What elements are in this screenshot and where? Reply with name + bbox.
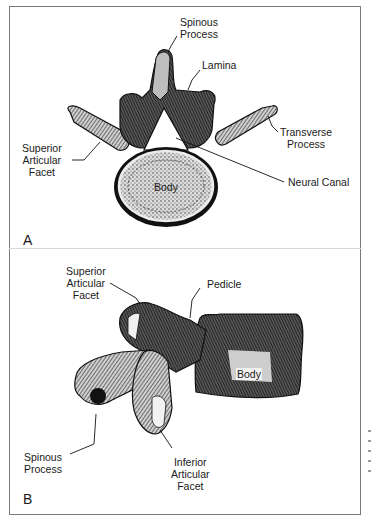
- label-line: Inferior: [171, 456, 210, 468]
- label-b-inferior-articular-facet: Inferior Articular Facet: [171, 456, 210, 492]
- label-b-superior-articular-facet: Superior Articular Facet: [66, 265, 106, 301]
- label-line: Neural Canal: [288, 176, 349, 188]
- label-a-transverse-process: Transverse Process: [280, 126, 332, 150]
- label-a-lamina: Lamina: [202, 59, 236, 71]
- label-line: Pedicle: [207, 278, 241, 290]
- label-line: Transverse: [280, 126, 332, 138]
- label-line: Lamina: [202, 59, 236, 71]
- label-b-pedicle: Pedicle: [207, 278, 241, 290]
- panel-a-vertebra-drawing: [68, 50, 277, 227]
- label-line: Process: [24, 463, 62, 475]
- panel-b-vertebra-drawing: [75, 303, 303, 434]
- label-line: Superior: [66, 265, 106, 277]
- label-b-body: Body: [236, 368, 262, 380]
- label-line: Superior: [22, 142, 62, 154]
- panel-letter-b: B: [23, 491, 32, 507]
- label-a-superior-articular-facet: Superior Articular Facet: [22, 142, 62, 178]
- label-a-neural-canal: Neural Canal: [288, 176, 349, 188]
- vertebra-illustrations: [0, 0, 376, 528]
- label-line: Facet: [171, 480, 210, 492]
- label-a-spinous-process: Spinous Process: [180, 16, 218, 40]
- label-line: Spinous: [24, 451, 62, 463]
- label-line: Facet: [22, 166, 62, 178]
- label-line: Process: [180, 28, 218, 40]
- label-line: Facet: [66, 289, 106, 301]
- label-line: Body: [154, 181, 178, 193]
- panel-letter-a: A: [23, 232, 32, 248]
- label-line: Articular: [22, 154, 62, 166]
- label-line: Articular: [171, 468, 210, 480]
- cropped-caption-edge: [368, 430, 374, 490]
- label-line: Body: [237, 368, 261, 380]
- label-a-body: Body: [154, 181, 178, 193]
- label-line: Spinous: [180, 16, 218, 28]
- label-b-spinous-process: Spinous Process: [24, 451, 62, 475]
- label-line: Articular: [66, 277, 106, 289]
- label-line: Process: [280, 138, 332, 150]
